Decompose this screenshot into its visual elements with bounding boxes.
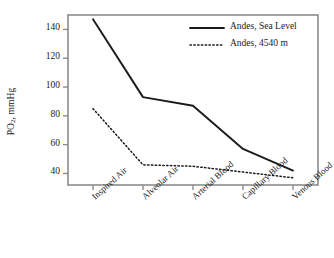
y-axis-label: PO2, mmHg xyxy=(2,60,20,170)
y-axis-label-subscript: 2 xyxy=(9,119,17,123)
y-tick-label: 80 xyxy=(22,109,60,119)
y-tick-label: 140 xyxy=(22,22,60,32)
legend-label: Andes, Sea Level xyxy=(230,21,297,31)
y-tick-label: 100 xyxy=(22,80,60,90)
y-axis-label-text: PO2, mmHg xyxy=(6,57,17,167)
legend-swatches xyxy=(190,28,224,45)
y-tick-label: 40 xyxy=(22,166,60,176)
y-tick-label: 120 xyxy=(22,51,60,61)
y-axis-label-main: PO xyxy=(6,123,16,135)
y-tick-label: 60 xyxy=(22,138,60,148)
legend-label: Andes, 4540 m xyxy=(230,38,288,48)
y-axis-label-units: , mmHg xyxy=(6,88,16,120)
